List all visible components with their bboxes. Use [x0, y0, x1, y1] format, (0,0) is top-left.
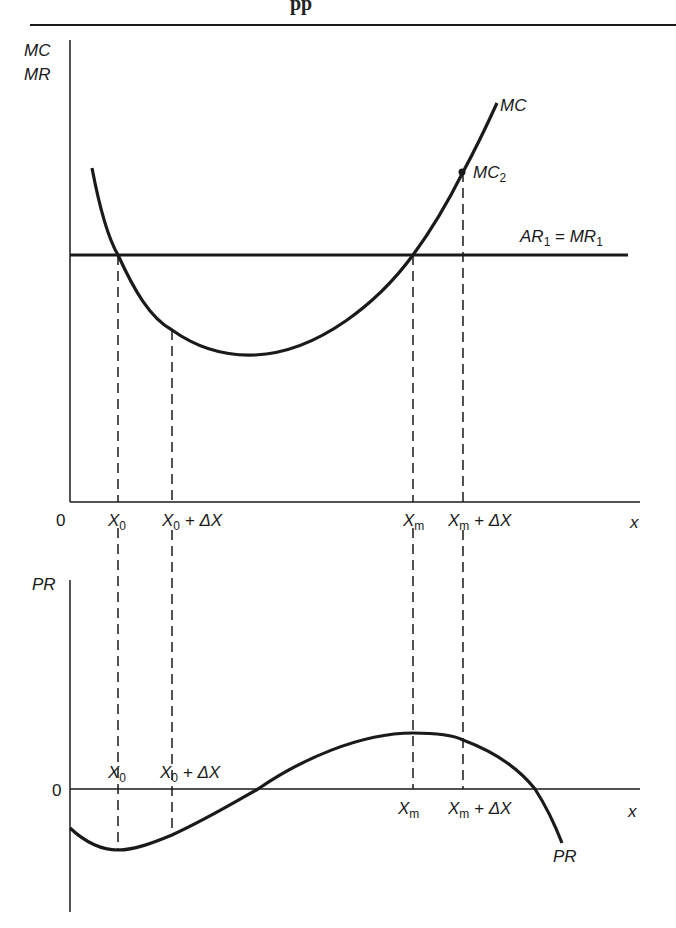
bottom-origin-label: 0	[52, 782, 61, 799]
mc2-text: MC	[473, 163, 499, 182]
x0-text: X	[108, 763, 119, 782]
x0dx-text: X	[160, 763, 171, 782]
xm-subscript: m	[414, 519, 424, 533]
x0-subscript: 0	[119, 519, 126, 533]
bottom-y-label-pr: PR	[32, 576, 56, 593]
x0-subscript: 0	[119, 771, 126, 785]
pr-curve	[70, 733, 562, 850]
top-x-axis-label: x	[630, 514, 639, 531]
xm-subscript: m	[409, 807, 419, 821]
x0dx-subscript: 0	[171, 771, 178, 785]
xmdx-tail: + ΔX	[469, 799, 511, 818]
mc2-point	[459, 169, 466, 176]
mr-subscript: 1	[596, 235, 603, 249]
top-chart	[70, 40, 640, 502]
bottom-x-axis-label: x	[628, 803, 637, 820]
top-tick-x0: X0	[108, 512, 126, 529]
diagram-canvas	[0, 0, 676, 928]
xmdx-text: X	[448, 511, 459, 530]
top-tick-xm-dx: Xm + ΔX	[448, 512, 511, 529]
ar-text: AR	[520, 227, 544, 246]
xmdx-tail: + ΔX	[469, 511, 511, 530]
ar-mr-label: AR1 = MR1	[520, 228, 603, 245]
pr-curve-label: PR	[553, 848, 577, 865]
mr-text: MR	[570, 227, 596, 246]
xmdx-subscript: m	[459, 807, 469, 821]
top-y-label-mr: MR	[24, 66, 50, 83]
top-tick-x0-dx: X0 + ΔX	[162, 512, 222, 529]
x0dx-text: X	[162, 511, 173, 530]
mc-curve	[92, 103, 497, 355]
bottom-tick-x0: X0	[108, 764, 126, 781]
top-dashed-guides	[118, 172, 463, 502]
mc2-subscript: 2	[499, 171, 506, 185]
bottom-tick-x0-dx: X0 + ΔX	[160, 764, 220, 781]
xmdx-text: X	[448, 799, 459, 818]
bottom-tick-xm: Xm	[398, 800, 419, 817]
xm-text: X	[398, 799, 409, 818]
x0dx-tail: + ΔX	[178, 763, 220, 782]
xmdx-subscript: m	[459, 519, 469, 533]
x0-text: X	[108, 511, 119, 530]
top-y-label-mc: MC	[24, 42, 50, 59]
mc-curve-label: MC	[500, 97, 526, 114]
top-origin-label: 0	[56, 512, 65, 529]
x0dx-tail: + ΔX	[180, 511, 222, 530]
top-tick-xm: Xm	[403, 512, 424, 529]
bottom-tick-xm-dx: Xm + ΔX	[448, 800, 511, 817]
equals-sign: =	[550, 227, 569, 246]
ar-subscript: 1	[544, 235, 551, 249]
x0dx-subscript: 0	[173, 519, 180, 533]
mc2-label: MC2	[473, 164, 506, 181]
xm-text: X	[403, 511, 414, 530]
